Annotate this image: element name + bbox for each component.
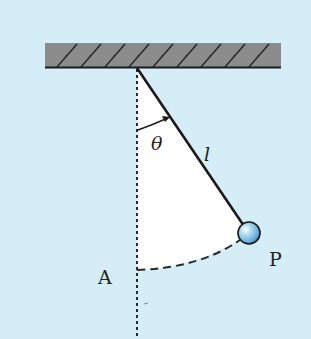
bob-label: P	[269, 250, 282, 269]
pendulum-figure	[0, 0, 311, 339]
pendulum-diagram: θ l P A	[0, 0, 311, 339]
angle-label: θ	[151, 134, 162, 153]
lowest-point-label: A	[98, 268, 112, 287]
pendulum-bob	[238, 222, 260, 244]
ceiling	[45, 43, 281, 68]
swept-sector	[137, 68, 249, 270]
length-label: l	[204, 145, 210, 164]
